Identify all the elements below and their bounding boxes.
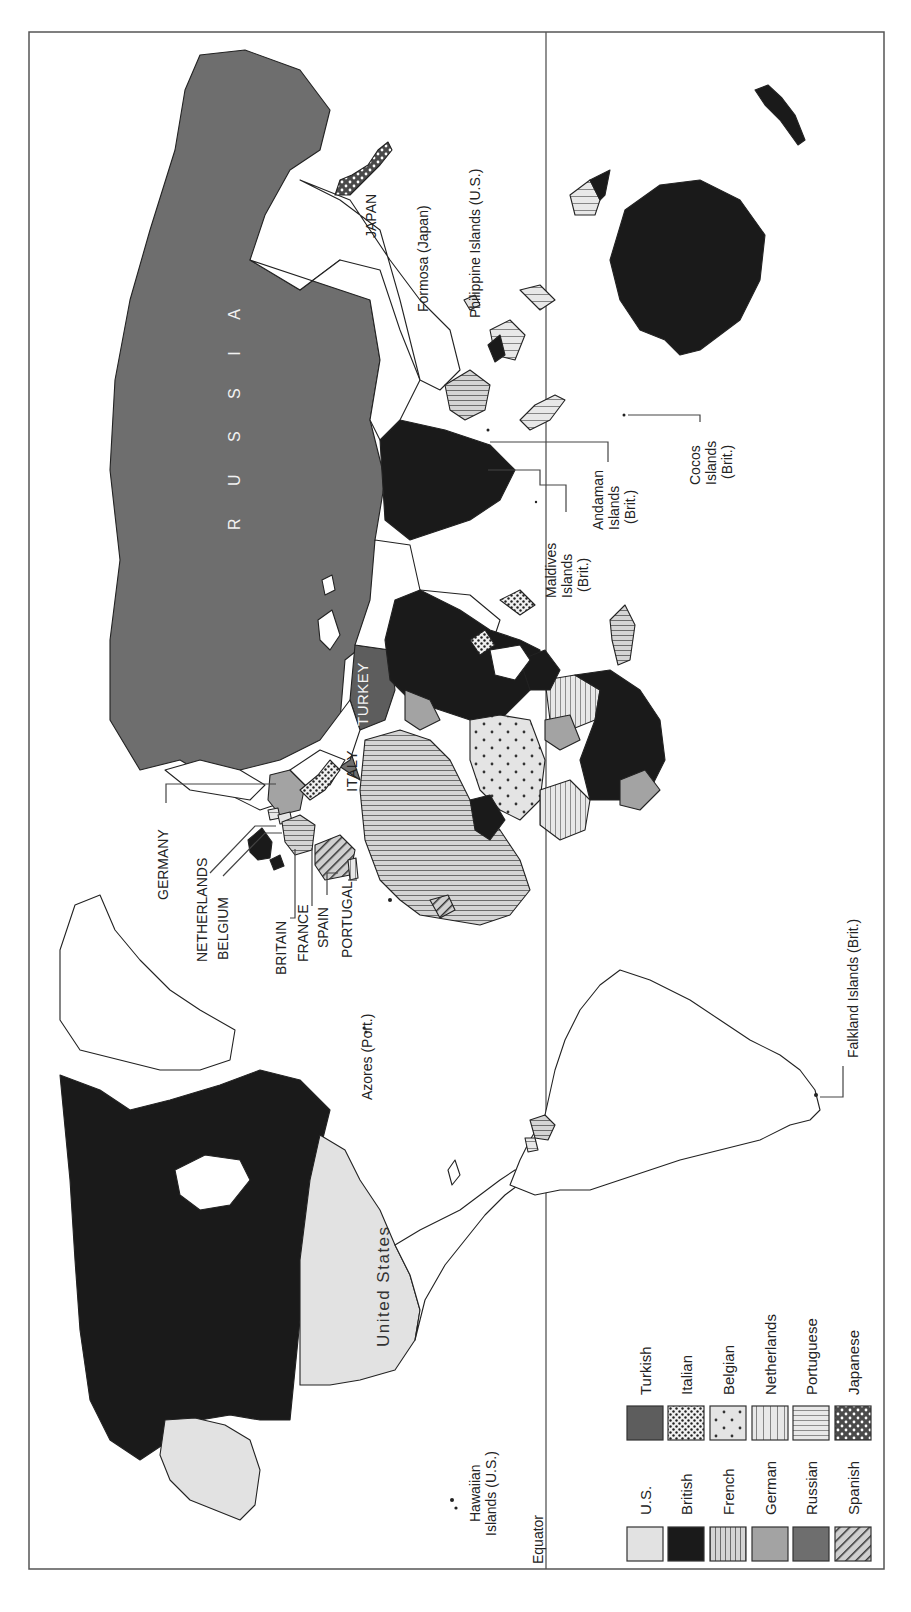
south-america	[510, 970, 820, 1195]
cuba	[448, 1160, 460, 1185]
label-belgium: BELGIUM	[215, 897, 231, 960]
label-falkland: Falkland Islands (Brit.)	[845, 919, 861, 1058]
cocos-dot	[623, 414, 626, 417]
canary-dot	[388, 898, 392, 902]
leader-andaman	[490, 442, 608, 462]
label-hawaii: Hawaiian Islands (U.S.)	[467, 1451, 499, 1536]
madagascar-french	[610, 605, 635, 665]
legend-label-german: German	[762, 1461, 779, 1515]
angola-port	[540, 780, 590, 840]
somaliland-italian	[500, 590, 535, 615]
leader-falkland	[820, 1066, 843, 1097]
portugal-region	[348, 858, 358, 880]
east-indies-sumatra	[520, 395, 565, 430]
label-britain: BRITAIN	[273, 921, 289, 975]
maldives-dot	[535, 501, 537, 503]
legend-swatch-portuguese	[793, 1406, 829, 1440]
label-spain: SPAIN	[315, 907, 331, 948]
legend-swatch-russian	[793, 1527, 829, 1561]
legend-swatch-japanese	[835, 1406, 871, 1440]
legend-swatch-german	[752, 1527, 788, 1561]
legend-label-belgian: Belgian	[720, 1345, 737, 1395]
legend-label-italian: Italian	[678, 1355, 695, 1395]
legend-swatch-belgian	[710, 1406, 746, 1440]
france-region	[282, 815, 315, 855]
label-andaman: Andaman Islands (Brit.)	[590, 466, 638, 530]
label-cocos: Cocos Islands (Brit.)	[687, 437, 735, 485]
label-formosa: Formosa (Japan)	[415, 205, 431, 312]
label-turkey: TURKEY	[354, 662, 371, 726]
label-russia: R U S S I A	[226, 295, 243, 530]
leader-cocos	[628, 415, 700, 422]
ireland-region	[270, 855, 284, 870]
legend: U.S. British French German Russian Spani…	[627, 1314, 871, 1561]
india-region	[380, 420, 515, 540]
label-japan: JAPAN	[363, 194, 379, 238]
legend-label-japanese: Japanese	[845, 1330, 862, 1395]
label-maldives: Maldives Islands (Brit.)	[543, 539, 591, 598]
colonial-empires-map: R U S S I A TURKEY ITALY United States J…	[0, 0, 911, 1612]
hawaii-dot	[450, 1498, 454, 1502]
label-united-states: United States	[374, 1225, 393, 1347]
canada-brit	[60, 1070, 330, 1460]
legend-swatch-us	[627, 1527, 663, 1561]
legend-label-spanish: Spanish	[845, 1461, 862, 1515]
australia-region	[610, 180, 765, 355]
label-philippines: Philippine Islands (U.S.)	[467, 169, 483, 318]
falkland-dot	[814, 1093, 818, 1097]
east-indies-celebes	[520, 285, 555, 310]
legend-label-french: French	[720, 1468, 737, 1515]
label-netherlands: NETHERLANDS	[194, 858, 210, 962]
hawaii-dot	[454, 1506, 457, 1509]
legend-label-russian: Russian	[803, 1461, 820, 1515]
label-italy: ITALY	[343, 750, 360, 792]
andaman-dot	[487, 429, 490, 432]
legend-swatch-italian	[668, 1406, 704, 1440]
russia-region	[110, 50, 385, 790]
label-equator: Equator	[530, 1515, 546, 1564]
japan-islands	[335, 142, 392, 195]
label-azores: Azores (Port.)	[359, 1014, 375, 1100]
legend-label-portuguese: Portuguese	[803, 1318, 820, 1395]
legend-swatch-french	[710, 1527, 746, 1561]
legend-swatch-netherlands	[752, 1406, 788, 1440]
legend-label-us: U.S.	[637, 1486, 654, 1515]
new-zealand	[755, 85, 805, 145]
legend-swatch-british	[668, 1527, 704, 1561]
label-portugal: PORTUGAL	[339, 881, 355, 958]
legend-swatch-turkish	[627, 1406, 663, 1440]
label-france: FRANCE	[295, 904, 311, 962]
legend-label-british: British	[678, 1473, 695, 1515]
alaska-region	[160, 1418, 260, 1520]
legend-swatch-spanish	[835, 1527, 871, 1561]
legend-label-turkish: Turkish	[637, 1346, 654, 1395]
label-germany: GERMANY	[155, 829, 171, 900]
legend-label-netherlands: Netherlands	[762, 1314, 779, 1395]
